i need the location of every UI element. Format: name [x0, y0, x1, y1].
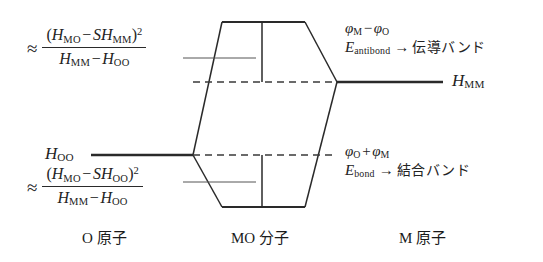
h-mm-symbol-label: H	[452, 71, 464, 90]
h-oo-symbol-den: H	[102, 50, 114, 67]
approx-sign-bond: ≈	[27, 177, 37, 199]
fraction-bond: (HMO−SHOO)2 HMM−HOO	[42, 165, 142, 208]
bonding-shift-formula: ≈ (HMO−SHOO)2 HMM−HOO	[27, 165, 143, 208]
oxygen-level-label: HOO	[45, 144, 74, 164]
mo-hexagon-upper-left-edge	[193, 22, 222, 155]
h-mm-symbol-den: H	[59, 50, 71, 67]
minus-operator-phi: −	[362, 20, 373, 36]
conduction-band-label: 伝導バンド	[412, 39, 486, 55]
minus-operator-bond: −	[81, 165, 93, 182]
antibonding-energy-line: Eantibond→伝導バンド	[345, 39, 486, 57]
h-mo-subscript: MO	[63, 34, 80, 45]
h-oo-symbol-den-bond: H	[100, 189, 112, 206]
exponent-two-bond: 2	[134, 165, 139, 176]
mo-energy-diagram-figure: ≈ (HMO−SHMM)2 HMM−HOO HOO ≈ (HMO−SHOO)2	[0, 0, 543, 262]
h-mo-symbol-bond: H	[52, 165, 64, 182]
energy-subscript-bond: bond	[354, 168, 375, 179]
fraction-denominator-bond: HMM−HOO	[42, 187, 142, 208]
h-mm-subscript-den-bond: MM	[69, 196, 88, 207]
energy-e-symbol-antibond: E	[345, 39, 354, 55]
mo-hexagon-lower-left-edge	[193, 155, 222, 207]
right-arrow-icon-bond: →	[375, 162, 397, 178]
fraction-denominator-antibond: HMM−HOO	[42, 48, 146, 69]
h-oo-symbol-label: H	[45, 144, 57, 163]
mo-hexagon-lower-right-edge	[305, 82, 337, 207]
phi-o-symbol: φ	[374, 20, 382, 36]
caption-mo-molecule: MO 分子	[231, 226, 289, 247]
exponent-two: 2	[137, 26, 142, 37]
antibonding-annotation: φM−φO Eantibond→伝導バンド	[345, 20, 486, 56]
h-oo-subscript-den-bond: OO	[112, 196, 128, 207]
h-mm-subscript-label: MM	[464, 78, 484, 90]
caption-oxygen-atom: O 原子	[82, 226, 127, 247]
bonding-annotation: φO+φM Ebond→結合バンド	[345, 143, 470, 179]
h-mm-subscript-den: MM	[71, 57, 90, 68]
h-oo-subscript-bond: OO	[113, 173, 129, 184]
valence-band-label: 結合バンド	[397, 162, 471, 178]
right-arrow-icon-antibond: →	[390, 39, 412, 55]
h-mm-subscript: MM	[113, 34, 132, 45]
fraction-numerator-antibond: (HMO−SHMM)2	[42, 26, 146, 48]
minus-operator: −	[81, 26, 93, 43]
h-mo-symbol: H	[52, 26, 64, 43]
overlap-s-symbol-bond: S	[93, 165, 101, 182]
fraction-antibond: (HMO−SHMM)2 HMM−HOO	[42, 26, 146, 69]
bonding-wavefunction: φO+φM	[345, 143, 470, 161]
approx-sign-antibond: ≈	[27, 38, 37, 60]
h-mm-symbol: H	[101, 26, 113, 43]
bonding-energy-line: Ebond→結合バンド	[345, 162, 470, 180]
h-oo-subscript-den: OO	[114, 57, 130, 68]
phi-m-subscript: M	[353, 26, 362, 37]
h-oo-subscript-label: OO	[57, 151, 74, 163]
mo-hexagon-upper-right-edge	[305, 22, 337, 82]
phi-o-subscript: O	[382, 26, 389, 37]
phi-m-subscript-bond: M	[380, 149, 389, 160]
plus-operator-phi: +	[361, 143, 372, 159]
phi-o-subscript-bond: O	[353, 149, 360, 160]
minus-operator-den-bond: −	[88, 189, 100, 206]
h-mm-symbol-den-bond: H	[58, 189, 70, 206]
energy-subscript-antibond: antibond	[354, 45, 390, 56]
h-oo-symbol-bond: H	[101, 165, 113, 182]
metal-level-label: HMM	[452, 71, 485, 91]
caption-metal-atom: M 原子	[399, 226, 446, 247]
minus-operator-den: −	[90, 50, 102, 67]
overlap-s-symbol: S	[93, 26, 101, 43]
h-mo-subscript-bond: MO	[63, 173, 80, 184]
energy-e-symbol-bond: E	[345, 162, 354, 178]
fraction-numerator-bond: (HMO−SHOO)2	[42, 165, 142, 187]
antibonding-wavefunction: φM−φO	[345, 20, 486, 38]
antibonding-shift-formula: ≈ (HMO−SHMM)2 HMM−HOO	[27, 26, 146, 69]
